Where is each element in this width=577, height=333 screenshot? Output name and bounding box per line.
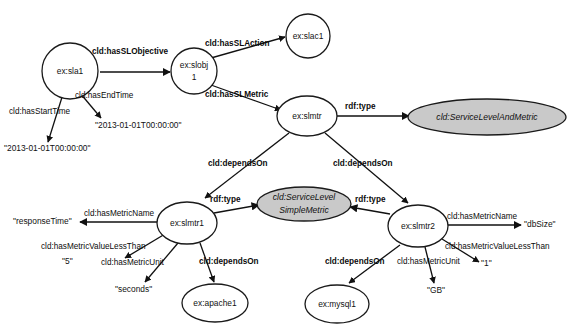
literal-value-one: "1" [481, 259, 492, 267]
graph-canvas: ex:sla1 ex:slobj 1 ex:slac1 ex:slmtr cld… [0, 0, 577, 333]
edge-slmtr1-rdf-type [214, 205, 259, 213]
edge-label-slmtr1-value-less-than: cld:hasMetricValueLessThan [41, 243, 146, 251]
node-ex-slobj1-label-line2: 1 [192, 72, 197, 82]
node-class-service-level-simple-metric-label-line1: cld:ServiceLevel [273, 192, 337, 202]
edge-label-slmtr2-has-metric-name: cld:hasMetricName [447, 213, 517, 221]
node-ex-apache1-label: ex:apache1 [193, 298, 237, 308]
node-class-service-level-and-metric-label: cld:ServiceLevelAndMetric [436, 112, 538, 122]
edge-label-slmtr1-has-metric-name: cld:hasMetricName [84, 210, 154, 218]
literal-db-size: "dbSize" [524, 220, 556, 228]
edge-label-has-sl-metric: cld:hasSLMetric [205, 91, 268, 99]
edge-label-slmtr2-value-less-than: cld:hasMetricValueLessThan [445, 243, 550, 251]
node-ex-slobj1-label-line1: ex:slobj [180, 60, 209, 70]
edge-label-slmtr2-depends-on-mysql1: cld:dependsOn [325, 258, 385, 266]
edge-label-has-end-time: cld:hasEndTime [75, 92, 133, 100]
node-ex-slobj1[interactable] [171, 48, 217, 94]
edge-slmtr2-rdf-type [350, 207, 390, 214]
edge-label-slmtr1-has-metric-unit: cld:hasMetricUnit [101, 259, 164, 267]
edge-label-slmtr-depends-on-slmtr2: cld:dependsOn [333, 160, 393, 168]
node-class-service-level-simple-metric-label-line2: SimpleMetric [279, 205, 329, 215]
literal-end-time: "2013-01-01T00:00:00" [95, 121, 182, 129]
literal-unit-seconds: "seconds" [115, 285, 152, 293]
node-ex-slac1-label: ex:slac1 [293, 31, 324, 41]
node-ex-slmtr2-label: ex:slmtr2 [401, 221, 435, 231]
edge-label-slmtr2-rdf-type: rdf:type [355, 196, 385, 204]
literal-response-time: "responseTime" [13, 217, 72, 225]
edge-label-has-start-time: cld:hasStartTime [9, 108, 70, 116]
edge-label-has-sl-objective: cld:hasSLObjective [92, 48, 168, 56]
rdf-graph-diagram: ex:sla1 ex:slobj 1 ex:slac1 ex:slmtr cld… [0, 0, 577, 333]
edge-label-slmtr2-has-metric-unit: cld:hasMetricUnit [397, 258, 460, 266]
literal-value-five: "5" [62, 257, 73, 265]
edge-label-slmtr1-depends-on-apache1: cld:dependsOn [199, 258, 259, 266]
edge-has-start-time [48, 94, 63, 142]
literal-start-time: "2013-01-01T00:00:00" [4, 144, 91, 152]
edge-label-slmtr1-rdf-type: rdf:type [210, 196, 240, 204]
node-ex-slmtr1-label: ex:slmtr1 [170, 218, 204, 228]
edge-label-slmtr-rdf-type: rdf:type [345, 103, 375, 111]
edge-label-has-sl-action: cld:hasSLAction [205, 40, 270, 48]
edge-label-slmtr-depends-on-slmtr1: cld:dependsOn [208, 160, 268, 168]
node-ex-sla1-label: ex:sla1 [57, 66, 84, 76]
node-ex-slmtr-label: ex:slmtr [292, 111, 322, 121]
literal-unit-gb: "GB" [427, 286, 445, 294]
node-ex-mysql1-label: ex:mysql1 [318, 299, 356, 309]
